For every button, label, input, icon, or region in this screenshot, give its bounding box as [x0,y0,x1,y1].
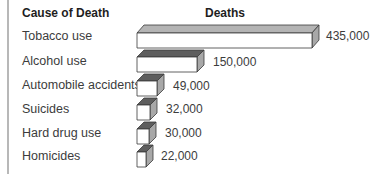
bar-automobile [137,74,164,96]
bar-alcohol [137,50,204,72]
bar-tobacco [137,25,319,48]
bar-suicides [137,98,157,120]
value-label-alcohol: 150,000 [213,55,256,69]
value-label-hard-drug: 30,000 [165,126,202,140]
value-label-automobile: 49,000 [173,79,210,93]
value-label-tobacco: 435,000 [326,29,369,43]
bar-homicides [137,145,153,167]
bar-hard-drug [137,122,156,144]
value-label-homicides: 22,000 [161,149,198,163]
value-label-suicides: 32,000 [166,102,203,116]
